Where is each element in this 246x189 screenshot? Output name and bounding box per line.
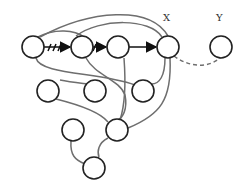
label-y: Y [216,12,223,23]
node-f [132,80,154,102]
node-b [71,36,93,58]
graph-canvas [0,0,246,189]
arrows [44,44,156,51]
node-g [62,119,84,141]
graph-diagram: X Y [0,0,246,189]
node-c [107,36,129,58]
node-d [37,80,59,102]
node-y [210,36,232,58]
node-x [157,36,179,58]
nodes [22,36,232,179]
node-i [83,157,105,179]
node-e [84,80,106,102]
label-x: X [163,12,170,23]
node-a [22,36,44,58]
node-h [106,119,128,141]
edges [36,15,221,164]
